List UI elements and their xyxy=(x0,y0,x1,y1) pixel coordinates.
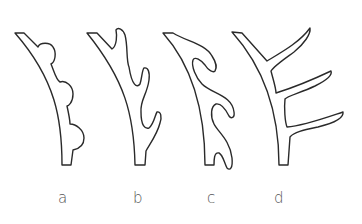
antler-development-diagram: a b c d xyxy=(0,0,362,224)
panel-d: d xyxy=(232,28,343,207)
label-c: c xyxy=(207,189,215,207)
shape-a-outline xyxy=(15,33,84,165)
panel-a: a xyxy=(15,33,84,207)
panel-b: b xyxy=(87,29,161,207)
panel-c: c xyxy=(163,33,234,207)
shape-b-outline xyxy=(87,29,161,165)
label-b: b xyxy=(133,189,143,207)
label-d: d xyxy=(274,189,284,207)
shape-d-outline xyxy=(232,28,343,165)
shape-c-outline xyxy=(163,33,234,169)
label-a: a xyxy=(58,189,67,207)
